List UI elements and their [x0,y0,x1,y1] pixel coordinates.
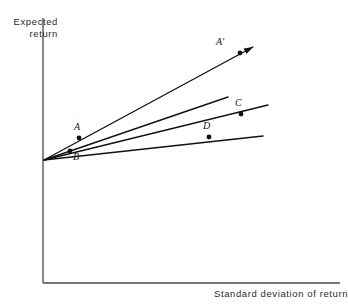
arrowhead-group [244,47,253,54]
y-axis-label-line1: Expected [14,16,58,27]
y-axis-label-line2: return [30,28,58,39]
point-marker-a [77,136,82,141]
axes-group [43,18,340,283]
point-marker-d [207,135,212,140]
point-marker-c [239,112,244,117]
y-axis-label: Expected return [2,16,58,40]
ray-a-prime [44,47,253,160]
point-label-b: B [73,151,79,162]
arrowhead-a-prime [244,47,253,54]
point-marker-b [68,149,73,154]
point-label-d: D [203,120,210,131]
figure-canvas [0,0,348,307]
point-label-a: A [74,121,80,132]
point-label-c: C [235,97,242,108]
x-axis-label: Standard deviation of return [214,288,348,300]
point-label-a-prime: A' [216,36,224,47]
point-marker-a-prime [238,51,243,56]
